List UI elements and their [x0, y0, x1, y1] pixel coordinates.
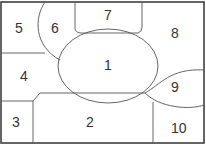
region-label-8: 8: [171, 25, 179, 41]
region-label-10: 10: [171, 120, 187, 136]
region-diagram: 1 2 3 4 5 6 7 8 9 10: [0, 0, 206, 146]
region-label-7: 7: [104, 7, 112, 23]
region-label-3: 3: [12, 114, 20, 130]
region-label-2: 2: [86, 114, 94, 130]
region-label-9: 9: [171, 79, 179, 95]
region-label-6: 6: [51, 20, 59, 36]
region-label-5: 5: [15, 20, 23, 36]
region-label-4: 4: [20, 68, 28, 84]
region-label-1: 1: [104, 57, 112, 73]
